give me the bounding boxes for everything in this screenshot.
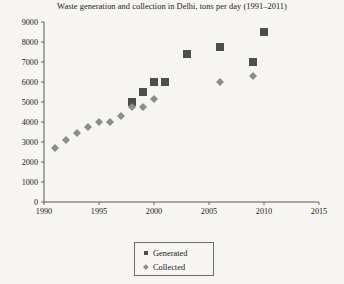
x-axis: 199019952000200520102015 (36, 202, 327, 216)
y-tick-label: 3000 (22, 138, 38, 147)
y-tick-label: 1000 (22, 178, 38, 187)
square-marker-icon (140, 251, 152, 256)
y-tick-label: 9000 (22, 18, 38, 27)
legend-label-generated: Generated (152, 249, 187, 258)
legend-entry-generated: Generated (140, 246, 213, 260)
x-tick-label: 2010 (256, 207, 272, 216)
legend-entry-collected: Collected (140, 260, 213, 274)
y-tick-label: 2000 (22, 158, 38, 167)
data-point-collected (150, 95, 158, 103)
data-point-collected (249, 72, 257, 80)
legend-label-collected: Collected (152, 263, 185, 272)
y-tick-label: 0 (34, 198, 38, 207)
chart-figure: Waste generation and collection in Delhi… (0, 0, 344, 284)
x-tick-label: 2005 (201, 207, 217, 216)
data-point-collected (51, 144, 59, 152)
data-point-generated (150, 78, 158, 86)
data-point-generated (216, 43, 224, 51)
data-point-collected (106, 118, 114, 126)
y-tick-label: 8000 (22, 38, 38, 47)
data-point-generated (161, 78, 169, 86)
data-series-group (51, 28, 268, 152)
data-point-generated (139, 88, 147, 96)
diamond-marker-icon (140, 265, 152, 269)
series-generated (128, 28, 268, 106)
data-point-collected (62, 136, 70, 144)
data-point-collected (73, 129, 81, 137)
data-point-collected (95, 118, 103, 126)
y-tick-label: 6000 (22, 78, 38, 87)
data-point-generated (260, 28, 268, 36)
data-point-generated (249, 58, 257, 66)
x-tick-label: 1990 (36, 207, 52, 216)
y-tick-label: 5000 (22, 98, 38, 107)
x-tick-label: 2015 (311, 207, 327, 216)
y-tick-label: 7000 (22, 58, 38, 67)
y-tick-label: 4000 (22, 118, 38, 127)
data-point-generated (183, 50, 191, 58)
data-point-collected (84, 123, 92, 131)
chart-legend: Generated Collected (134, 242, 214, 276)
x-tick-label: 2000 (146, 207, 162, 216)
x-tick-label: 1995 (91, 207, 107, 216)
data-point-collected (216, 78, 224, 86)
data-point-collected (139, 103, 147, 111)
data-point-collected (117, 112, 125, 120)
y-axis: 0100020003000400050006000700080009000 (22, 18, 44, 207)
